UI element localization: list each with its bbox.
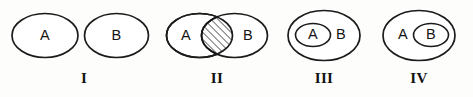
set-relation-figure: A B I A B II A B III bbox=[0, 0, 473, 97]
diagram-iv-label-b: B bbox=[426, 26, 436, 42]
figure-canvas: A B I A B II A B III bbox=[0, 0, 473, 97]
diagram-ii-numeral: II bbox=[211, 70, 223, 86]
diagram-i-label-b: B bbox=[112, 27, 122, 43]
diagram-iv: A B IV bbox=[383, 11, 455, 87]
diagram-iii-label-b: B bbox=[336, 26, 346, 42]
diagram-i-numeral: I bbox=[81, 70, 87, 86]
diagram-i-label-a: A bbox=[40, 27, 50, 43]
diagram-i: A B I bbox=[12, 14, 149, 87]
diagram-iii-label-a: A bbox=[308, 26, 318, 42]
diagram-iv-label-a: A bbox=[398, 26, 408, 42]
diagram-iv-numeral: IV bbox=[410, 70, 427, 86]
diagram-iii: A B III bbox=[288, 11, 360, 87]
diagram-iii-numeral: III bbox=[315, 70, 334, 86]
diagram-ii: A B II bbox=[167, 14, 268, 87]
diagram-ii-label-a: A bbox=[181, 27, 191, 43]
diagram-ii-label-b: B bbox=[243, 27, 253, 43]
